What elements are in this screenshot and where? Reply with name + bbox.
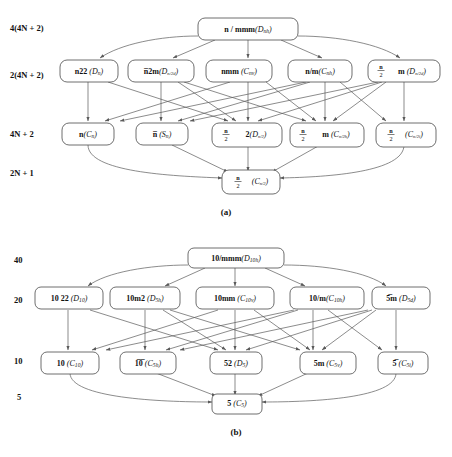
- level-label-a-3: 2N + 1: [10, 168, 34, 178]
- diagram-a-svg: 4(4N + 2) 2(4N + 2) 4N + 2 2N + 1: [0, 0, 452, 230]
- node-a-nhalf[interactable]: n 2 (Cn/2i): [376, 123, 436, 147]
- node-a-nhalf-m[interactable]: n 2 m (Dn/2d): [368, 60, 440, 82]
- node-b-10m2[interactable]: 10m2 (D5h): [110, 287, 180, 309]
- svg-text:2: 2: [389, 135, 392, 142]
- svg-text:n: n: [224, 127, 228, 134]
- node-a-n-m[interactable]: n/m(Cnh): [288, 60, 352, 82]
- node-a-n[interactable]: n(Cn): [62, 123, 114, 145]
- diagram-b-svg: 40 20 10 5: [0, 230, 452, 457]
- figure-page: 4(4N + 2) 2(4N + 2) 4N + 2 2N + 1: [0, 0, 452, 457]
- caption-a: (a): [221, 207, 232, 217]
- node-a-top[interactable]: n / mmm(Dnh): [198, 18, 298, 40]
- node-a-nbar[interactable]: n̅ (Sn): [136, 123, 188, 145]
- node-label: 1̅0̅ (C5h): [135, 359, 162, 368]
- diagram-panel-b: 40 20 10 5: [0, 230, 452, 457]
- node-a-nhalf-m2[interactable]: n 2 m (Cn/2h): [290, 123, 364, 147]
- node-label: n̅ (Sn): [152, 130, 172, 139]
- svg-text:n: n: [379, 63, 383, 70]
- node-b-5barm[interactable]: 5̅m (D5d): [372, 287, 430, 309]
- svg-text:2: 2: [236, 182, 239, 189]
- node-b-10mm[interactable]: 10mm (C10v): [196, 287, 274, 309]
- level-label-a-0: 4(4N + 2): [10, 23, 44, 33]
- edge-group-a: [88, 36, 404, 178]
- node-label: 5̅ (C5i): [392, 359, 413, 368]
- node-b-10[interactable]: 10 (C10): [41, 352, 99, 374]
- level-label-b-0: 40: [14, 255, 23, 265]
- level-label-b-2: 10: [14, 356, 23, 366]
- level-label-a-2: 4N + 2: [10, 129, 34, 139]
- node-b-52[interactable]: 52 (D5): [210, 352, 262, 374]
- node-label: 2(Dn/2): [246, 130, 267, 139]
- node-b-top[interactable]: 10/mmm(D10h): [188, 248, 284, 268]
- node-label: 10 (C10): [57, 359, 84, 368]
- level-label-a-1: 2(4N + 2): [10, 70, 44, 80]
- level-label-b-1: 20: [14, 295, 23, 305]
- node-a-nbar2m[interactable]: n̅2m(Dn/2d): [128, 60, 194, 82]
- node-b-10-m[interactable]: 10/m(C10h): [290, 287, 364, 309]
- caption-b: (b): [231, 427, 242, 437]
- node-b-5m[interactable]: 5m (C5v): [300, 352, 356, 374]
- node-label: 52 (D5): [224, 359, 248, 368]
- svg-text:n: n: [236, 174, 240, 181]
- node-b-10bar[interactable]: 1̅0̅ (C5h): [120, 352, 176, 374]
- svg-text:2: 2: [224, 135, 227, 142]
- node-b-1022[interactable]: 10 22 (D10): [35, 287, 103, 309]
- svg-text:n: n: [301, 127, 305, 134]
- node-a-n22[interactable]: n22 (Dn): [60, 60, 118, 82]
- node-a-nmm[interactable]: nmm (Cnv): [206, 60, 272, 82]
- node-b-bot[interactable]: 5 (C5): [212, 394, 262, 414]
- diagram-panel-a: 4(4N + 2) 2(4N + 2) 4N + 2 2N + 1: [0, 0, 452, 230]
- node-label: n(Cn): [79, 130, 97, 139]
- node-b-5bar[interactable]: 5̅ (C5i): [378, 352, 428, 374]
- node-label: 5 (C5): [227, 399, 247, 408]
- svg-text:2: 2: [301, 135, 304, 142]
- node-a-nhalf-2[interactable]: n 2 2(Dn/2): [212, 123, 282, 147]
- level-label-b-3: 5: [17, 392, 21, 402]
- svg-text:n: n: [389, 127, 393, 134]
- node-a-bot[interactable]: n 2 (Cn/2): [222, 170, 280, 194]
- edge-group-b: [68, 265, 396, 402]
- svg-text:2: 2: [379, 71, 382, 78]
